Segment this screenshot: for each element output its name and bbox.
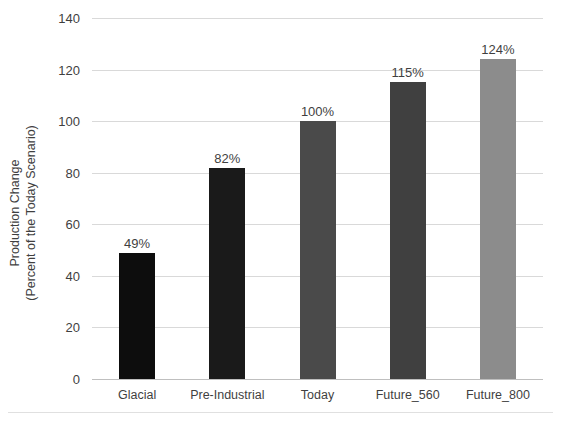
x-tick-label-today: Today [272, 383, 362, 407]
x-tick-label-future-800: Future_800 [453, 383, 543, 407]
bar-glacial[interactable]: 49% [119, 253, 155, 379]
bar-future-800[interactable]: 124% [480, 59, 516, 379]
axis-baseline-0 [92, 379, 543, 380]
x-axis-tick-labels: Glacial Pre-Industrial Today Future_560 … [92, 383, 543, 407]
y-tick-label: 100 [58, 115, 80, 128]
y-axis-tick-labels: 140 120 100 80 60 40 20 0 [46, 18, 86, 379]
plot-area: 49% 82% 100% 115% 124% [92, 18, 543, 379]
bar-chart: Production Change (Percent of the Today … [0, 0, 561, 426]
x-tick-label-pre-industrial: Pre-Industrial [182, 383, 272, 407]
bar-today[interactable]: 100% [300, 121, 336, 379]
bar-slot-glacial: 49% [92, 18, 182, 379]
bar-slot-pre-industrial: 82% [182, 18, 272, 379]
bar-future-560[interactable]: 115% [390, 82, 426, 379]
bar-slot-today: 100% [272, 18, 362, 379]
y-tick-label: 40 [66, 269, 80, 282]
y-axis-title-line-2: (Percent of the Today Scenario) [23, 125, 39, 301]
y-tick-label: 80 [66, 166, 80, 179]
x-tick-label-glacial: Glacial [92, 383, 182, 407]
bar-slot-future-800: 124% [453, 18, 543, 379]
bar-value-label: 82% [214, 152, 240, 165]
y-tick-label: 0 [73, 373, 80, 386]
y-tick-label: 60 [66, 218, 80, 231]
bar-pre-industrial[interactable]: 82% [209, 168, 245, 379]
bar-value-label: 115% [392, 66, 424, 79]
bar-value-label: 124% [481, 43, 514, 56]
bars-layer: 49% 82% 100% 115% 124% [92, 18, 543, 379]
y-tick-label: 140 [58, 12, 80, 25]
bar-slot-future-560: 115% [363, 18, 453, 379]
y-tick-label: 20 [66, 321, 80, 334]
y-axis-title-line-1: Production Change [7, 125, 23, 301]
y-tick-label: 120 [58, 63, 80, 76]
bar-value-label: 49% [124, 237, 150, 250]
x-tick-label-future-560: Future_560 [363, 383, 453, 407]
bar-value-label: 100% [301, 105, 334, 118]
bottom-rule [8, 412, 553, 413]
y-axis-title: Production Change (Percent of the Today … [0, 0, 46, 426]
